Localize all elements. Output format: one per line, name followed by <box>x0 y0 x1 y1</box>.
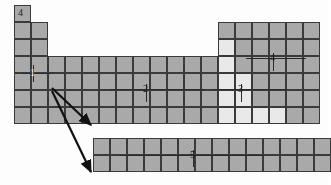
label-4-corner: 4 <box>18 8 23 18</box>
arrow-upper <box>52 88 91 125</box>
label-5: 5 <box>190 150 195 160</box>
label-3: 3 <box>238 84 243 94</box>
label-2: 2 <box>143 84 148 94</box>
label-4: 4 <box>270 53 275 63</box>
arrow-lower <box>52 91 91 172</box>
label-1: 1 <box>30 68 35 78</box>
